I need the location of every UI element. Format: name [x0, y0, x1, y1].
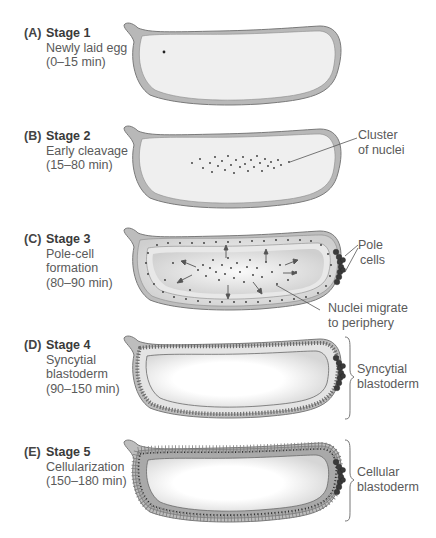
egg-interior — [139, 134, 335, 203]
nucleus-dot — [163, 51, 166, 54]
callout-cluster-of-nuclei: Cluster of nuclei — [358, 128, 405, 157]
stage-d-panel: (D) Stage 4 Syncytial blastoderm (90–150… — [0, 320, 436, 430]
stage-a-panel: (A) Stage 1 Newly laid egg (0–15 min) — [0, 0, 436, 110]
callout-line: Pole — [358, 238, 385, 253]
callout-syncytial-blastoderm: Syncytial blastoderm — [357, 362, 419, 391]
egg-interior — [139, 31, 335, 100]
stage-e-panel: (E) Stage 5 Cellularization (150–180 min… — [0, 430, 436, 538]
brace — [345, 337, 354, 419]
callout-pole-cells: Pole cells — [358, 238, 385, 267]
egg-diagram-stage-2 — [0, 110, 436, 210]
stage-c-panel: (C) Stage 3 Pole-cell formation (80–90 m… — [0, 210, 436, 320]
leader-line — [345, 245, 358, 256]
callout-line: blastoderm — [357, 377, 419, 392]
callout-line: of nuclei — [358, 143, 405, 158]
leader-line — [345, 248, 358, 272]
callout-line: Cellular — [357, 465, 419, 480]
callout-line: Nuclei migrate — [328, 301, 408, 316]
stage-b-panel: (B) Stage 2 Early cleavage (15–80 min) C… — [0, 110, 436, 210]
callout-cellular-blastoderm: Cellular blastoderm — [357, 465, 419, 494]
callout-line: cells — [358, 253, 385, 268]
callout-line: Cluster — [358, 128, 405, 143]
brace — [345, 440, 354, 521]
egg-diagram-stage-1 — [0, 0, 436, 110]
callout-line: blastoderm — [357, 480, 419, 495]
callout-line: Syncytial — [357, 362, 419, 377]
